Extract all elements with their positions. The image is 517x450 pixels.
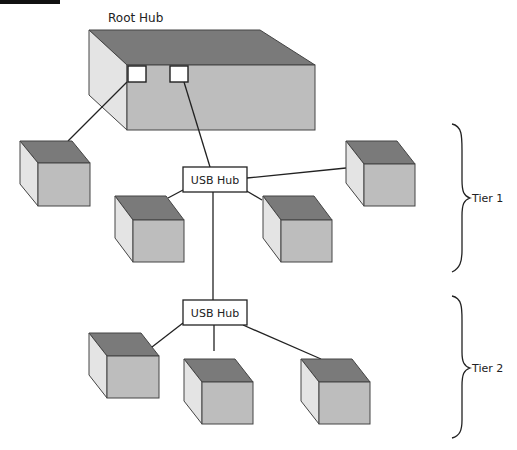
device-cube (263, 196, 332, 262)
usb-hub-tier1: USB Hub (183, 167, 247, 192)
hub1-label: USB Hub (191, 174, 239, 187)
tier2-label: Tier 2 (471, 362, 503, 375)
device-cube (184, 359, 253, 424)
device-cube (115, 196, 184, 262)
tier1-label: Tier 1 (471, 192, 503, 205)
tier1-brace (452, 124, 470, 272)
device-cube (20, 141, 90, 206)
usb-topology-diagram: .top { fill:#7a7a7a; stroke:#444; stroke… (0, 0, 517, 450)
root-hub (89, 30, 315, 130)
title-bar (0, 0, 60, 4)
root-port-1 (128, 66, 146, 82)
hub2-label: USB Hub (191, 307, 239, 320)
root-port-2 (170, 66, 188, 82)
root-hub-label: Root Hub (108, 11, 163, 25)
usb-hub-tier2: USB Hub (183, 300, 247, 325)
tier2-brace (452, 296, 470, 438)
device-cube (301, 359, 370, 424)
device-cube (89, 333, 159, 398)
device-cube (346, 141, 415, 206)
